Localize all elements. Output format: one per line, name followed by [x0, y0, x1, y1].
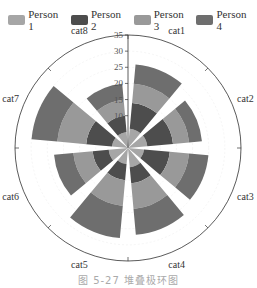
radial-tick-label: 10 — [114, 111, 124, 121]
category-label: cat1 — [168, 25, 185, 36]
figure-caption: 图 5-27 堆叠极环图 — [0, 272, 257, 287]
category-label: cat8 — [71, 25, 88, 36]
axis-tick — [205, 225, 208, 228]
radial-tick-label: 15 — [114, 95, 124, 105]
axis-tick — [205, 68, 208, 71]
radial-tick-label: 25 — [114, 62, 124, 72]
radial-tick-label: 35 — [114, 30, 124, 40]
axis-tick — [48, 225, 51, 228]
axis-tick — [48, 68, 51, 71]
category-label: cat6 — [2, 191, 19, 202]
radial-tick-label: 30 — [114, 46, 124, 56]
category-label: cat2 — [237, 93, 254, 104]
radial-tick-label: 20 — [114, 78, 124, 88]
category-label: cat7 — [2, 93, 19, 104]
polar-chart: cat1cat2cat3cat4cat5cat6cat7cat810152025… — [0, 0, 257, 288]
category-label: cat3 — [237, 191, 254, 202]
category-label: cat4 — [168, 259, 185, 270]
category-label: cat5 — [71, 259, 88, 270]
